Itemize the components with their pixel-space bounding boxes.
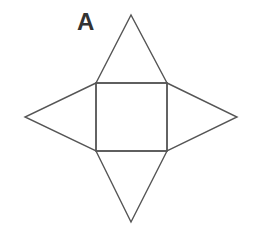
left-triangle xyxy=(25,83,96,151)
center-square xyxy=(96,83,167,151)
pyramid-net-diagram xyxy=(0,0,255,229)
top-triangle xyxy=(96,15,167,83)
right-triangle xyxy=(167,83,237,151)
bottom-triangle xyxy=(96,151,167,222)
